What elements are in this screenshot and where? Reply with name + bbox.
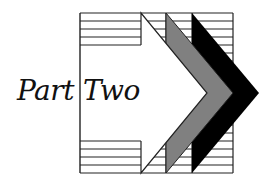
title-word-part: Part <box>17 74 74 108</box>
title-word-two: Two <box>83 74 140 108</box>
section-title: PartTwo <box>17 74 140 108</box>
